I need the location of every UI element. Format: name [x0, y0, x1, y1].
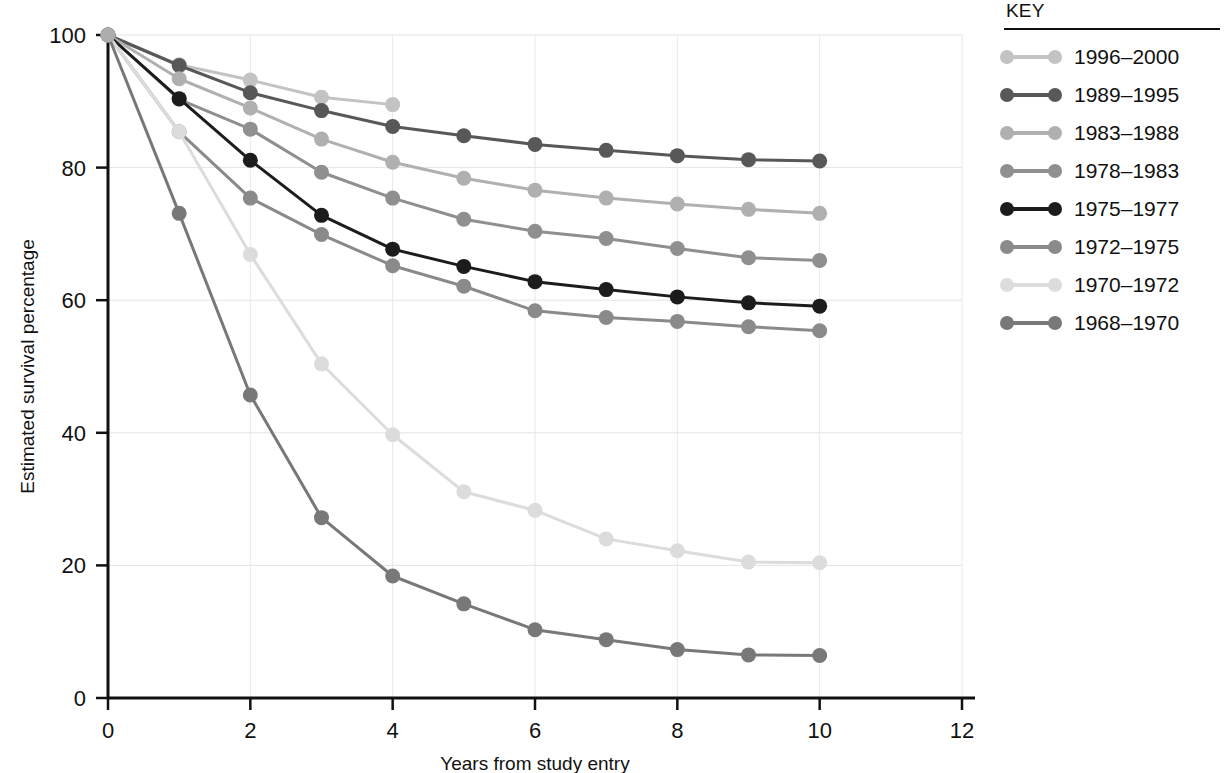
- data-point: [812, 323, 827, 338]
- x-axis-title: Years from study entry: [440, 753, 630, 773]
- data-point: [599, 632, 614, 647]
- data-point: [812, 206, 827, 221]
- data-point: [670, 642, 685, 657]
- data-point: [599, 143, 614, 158]
- data-point: [741, 319, 756, 334]
- data-point: [172, 71, 187, 86]
- data-point: [528, 622, 543, 637]
- data-point: [314, 103, 329, 118]
- data-point: [172, 206, 187, 221]
- data-point: [741, 202, 756, 217]
- y-axis-ticks: 020406080100: [49, 23, 108, 711]
- data-point: [741, 295, 756, 310]
- legend-item-label: 1983–1988: [1074, 121, 1179, 145]
- data-point: [599, 531, 614, 546]
- data-point: [670, 241, 685, 256]
- data-point: [456, 259, 471, 274]
- data-point: [385, 427, 400, 442]
- legend-item-label: 1970–1972: [1074, 273, 1179, 297]
- data-point: [599, 191, 614, 206]
- legend-swatch-icon: [1000, 49, 1062, 65]
- legend-items: 1996–20001989–19951983–19881978–19831975…: [1000, 38, 1225, 342]
- data-point: [812, 253, 827, 268]
- data-point: [670, 197, 685, 212]
- y-tick-label: 0: [74, 686, 86, 711]
- data-point: [528, 503, 543, 518]
- y-axis-title: Estimated survival percentage: [17, 239, 38, 494]
- x-tick-label: 2: [244, 718, 256, 743]
- data-point: [599, 231, 614, 246]
- data-point: [670, 543, 685, 558]
- data-point: [314, 356, 329, 371]
- data-point: [101, 28, 116, 43]
- data-point: [456, 212, 471, 227]
- data-point: [314, 227, 329, 242]
- data-point: [456, 171, 471, 186]
- origin-marker-cluster: [101, 28, 116, 43]
- legend-swatch-icon: [1000, 201, 1062, 217]
- data-point: [456, 596, 471, 611]
- legend-item-label: 1996–2000: [1074, 45, 1179, 69]
- data-point: [385, 155, 400, 170]
- legend-item: 1975–1977: [1000, 190, 1225, 228]
- legend-swatch-icon: [1000, 125, 1062, 141]
- legend-divider: [1004, 28, 1220, 30]
- data-point: [528, 137, 543, 152]
- data-point: [599, 282, 614, 297]
- x-tick-label: 10: [807, 718, 831, 743]
- data-point: [385, 97, 400, 112]
- data-point: [243, 153, 258, 168]
- data-point: [243, 100, 258, 115]
- data-point: [243, 388, 258, 403]
- data-point: [528, 224, 543, 239]
- data-point: [314, 208, 329, 223]
- data-point: [528, 303, 543, 318]
- legend-swatch-icon: [1000, 87, 1062, 103]
- legend-item: 1989–1995: [1000, 76, 1225, 114]
- data-point: [741, 250, 756, 265]
- legend-item: 1972–1975: [1000, 228, 1225, 266]
- legend-title: KEY: [1000, 0, 1225, 22]
- data-point: [812, 299, 827, 314]
- data-point: [456, 128, 471, 143]
- x-tick-label: 0: [102, 718, 114, 743]
- data-point: [670, 289, 685, 304]
- series-4: [108, 35, 827, 268]
- data-point: [385, 569, 400, 584]
- data-point: [741, 152, 756, 167]
- data-point: [385, 191, 400, 206]
- data-point: [314, 510, 329, 525]
- data-point: [456, 279, 471, 294]
- series-2: [108, 35, 827, 168]
- data-point: [172, 124, 187, 139]
- data-point: [243, 122, 258, 137]
- y-tick-label: 60: [62, 288, 86, 313]
- data-point: [314, 90, 329, 105]
- data-point: [670, 148, 685, 163]
- data-point: [314, 165, 329, 180]
- legend-swatch-icon: [1000, 239, 1062, 255]
- chart-legend: KEY 1996–20001989–19951983–19881978–1983…: [1000, 0, 1225, 400]
- data-point: [741, 647, 756, 662]
- x-tick-label: 8: [671, 718, 683, 743]
- data-point: [812, 648, 827, 663]
- legend-swatch-icon: [1000, 163, 1062, 179]
- data-point: [385, 242, 400, 257]
- chart-page: 020406080100024681012Years from study en…: [0, 0, 1225, 773]
- data-point: [385, 119, 400, 134]
- x-tick-label: 4: [387, 718, 399, 743]
- line-chart: 020406080100024681012Years from study en…: [0, 0, 975, 773]
- data-point: [456, 484, 471, 499]
- legend-swatch-icon: [1000, 277, 1062, 293]
- data-point: [741, 555, 756, 570]
- legend-item: 1978–1983: [1000, 152, 1225, 190]
- x-axis-ticks: 024681012: [102, 698, 974, 743]
- y-tick-label: 100: [49, 23, 86, 48]
- legend-item-label: 1972–1975: [1074, 235, 1179, 259]
- data-point: [172, 58, 187, 73]
- data-point: [314, 132, 329, 147]
- data-point: [528, 274, 543, 289]
- legend-item-label: 1968–1970: [1074, 311, 1179, 335]
- legend-item-label: 1989–1995: [1074, 83, 1179, 107]
- data-point: [243, 191, 258, 206]
